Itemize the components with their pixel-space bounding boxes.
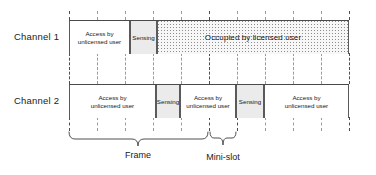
block-sensing-c2-2[interactable]: Sensing <box>236 85 264 118</box>
slot-guide-bot-7 <box>265 117 266 131</box>
block-access-c1-1[interactable]: Access by unlicensed user <box>69 21 130 54</box>
slot-guide-mid-10 <box>349 53 350 84</box>
block-label: Sensing <box>156 98 180 105</box>
slot-guide-bot-9 <box>321 117 322 131</box>
block-access-c2-2[interactable]: Access by unlicensed user <box>180 85 236 118</box>
diagram-canvas: Channel 1 Access by unlicensed user Sens… <box>0 0 376 175</box>
block-label: Sensing <box>238 98 262 105</box>
slot-guide-bot-2 <box>125 117 126 131</box>
slot-guide-bot-1 <box>97 117 98 131</box>
slot-guide-mid-7 <box>265 53 266 84</box>
slot-guide-mid-3 <box>153 53 154 84</box>
mini-slot-brace-label: Mini-slot <box>193 152 253 162</box>
slot-guide-6 <box>237 11 238 20</box>
block-occupied-c1-1[interactable]: Occupied by licensed user <box>157 21 349 54</box>
channel-1-label: Channel 1 <box>14 31 59 42</box>
slot-guide-9 <box>321 11 322 20</box>
slot-guide-3 <box>153 11 154 20</box>
slot-guide-0 <box>69 11 70 20</box>
block-label: Access by unlicensed user <box>284 94 329 109</box>
block-sensing-c1-1[interactable]: Sensing <box>130 21 157 54</box>
slot-guide-mid-9 <box>321 53 322 84</box>
slot-guide-bot-4 <box>181 117 182 131</box>
block-label: Occupied by licensed user <box>204 33 302 42</box>
slot-guide-mid-2 <box>125 53 126 84</box>
slot-guide-1 <box>97 11 98 20</box>
slot-guide-bot-8 <box>293 117 294 131</box>
frame-brace-label: Frame <box>108 150 168 160</box>
slot-guide-bot-5 <box>209 117 210 131</box>
slot-guide-mid-6 <box>237 53 238 84</box>
slot-guide-bot-6 <box>237 117 238 131</box>
block-label: Access by unlicensed user <box>90 94 135 109</box>
slot-guide-mid-4 <box>181 53 182 84</box>
channel-1-timeline: Access by unlicensed user Sensing Occupi… <box>69 20 349 53</box>
slot-guide-8 <box>293 11 294 20</box>
slot-guide-mid-0 <box>69 53 70 84</box>
channel-2-timeline: Access by unlicensed user Sensing Access… <box>69 84 349 117</box>
slot-guide-bot-10 <box>349 117 350 131</box>
mini-slot-brace-path <box>210 132 236 145</box>
slot-guide-mid-8 <box>293 53 294 84</box>
channel-2-label: Channel 2 <box>14 95 59 106</box>
slot-guide-4 <box>181 11 182 20</box>
slot-guide-2 <box>125 11 126 20</box>
slot-guide-5 <box>209 11 210 20</box>
slot-guide-mid-5 <box>209 53 210 84</box>
frame-brace-path <box>69 132 208 146</box>
block-label: Access by unlicensed user <box>185 94 230 109</box>
block-access-c2-3[interactable]: Access by unlicensed user <box>264 85 349 118</box>
slot-guide-bot-3 <box>153 117 154 131</box>
slot-guide-bot-0 <box>69 117 70 131</box>
slot-guide-7 <box>265 11 266 20</box>
slot-guide-10 <box>349 11 350 20</box>
slot-guide-mid-1 <box>97 53 98 84</box>
block-access-c2-1[interactable]: Access by unlicensed user <box>69 85 156 118</box>
block-label: Access by unlicensed user <box>77 30 122 45</box>
block-sensing-c2-1[interactable]: Sensing <box>156 85 180 118</box>
block-label: Sensing <box>131 34 155 41</box>
